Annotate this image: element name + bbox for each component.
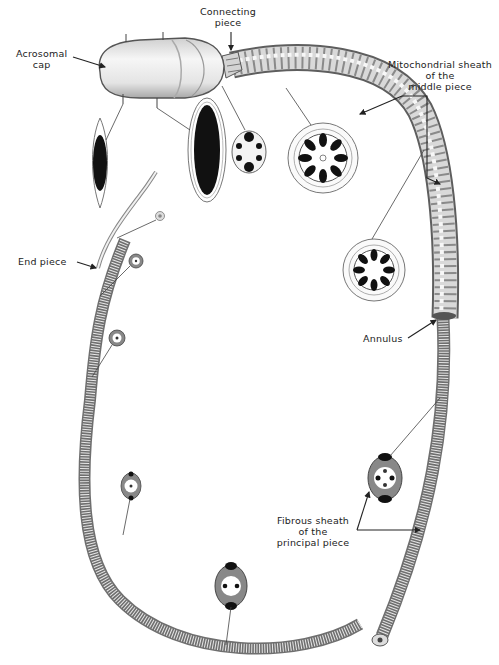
label-mitochondrial-sheath: Mitochondrial sheath of the middle piece — [381, 59, 499, 92]
neck-cross-section — [222, 86, 266, 173]
label-connecting-piece: Connecting piece — [200, 6, 256, 28]
sperm-diagram — [0, 0, 499, 665]
end-piece — [98, 172, 156, 268]
head-cross-section-1 — [93, 104, 124, 208]
label-end-piece: End piece — [18, 256, 66, 267]
head-cross-section-2 — [157, 98, 226, 202]
label-annulus: Annulus — [363, 333, 403, 344]
middle-piece — [232, 55, 456, 320]
label-fibrous-sheath: Fibrous sheath of the principal piece — [270, 515, 356, 548]
label-acrosomal-cap: Acrosomal cap — [16, 48, 67, 70]
middle-cross-section-1 — [286, 88, 358, 193]
sperm-head — [99, 32, 224, 108]
principal-piece — [84, 240, 443, 649]
principal-cross-section-bottom — [215, 562, 247, 645]
principal-cross-section-left — [121, 472, 141, 536]
annulus-ring — [432, 312, 456, 320]
